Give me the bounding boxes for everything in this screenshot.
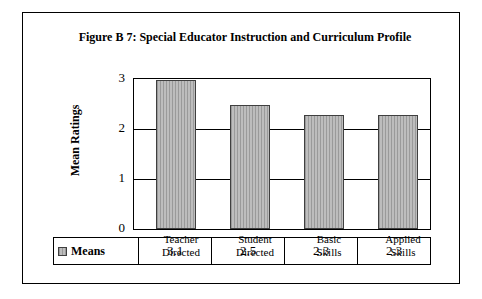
bar-student-directed (230, 105, 270, 229)
legend-label: Means (71, 244, 105, 258)
figure-container: Figure B 7: Special Educator Instruction… (0, 0, 482, 299)
table-cell-student-directed: 2.5 (212, 238, 285, 265)
y-axis-title: Mean Ratings (68, 81, 83, 201)
legend-cell: Means (54, 238, 139, 265)
chart-title: Figure B 7: Special Educator Instruction… (75, 29, 415, 45)
y-tick-label-1: 1 (103, 173, 125, 183)
bar-basic-skills (304, 115, 344, 229)
chart-frame: Figure B 7: Special Educator Instruction… (22, 12, 460, 284)
table-cell-teacher-directed: 3.1 (139, 238, 212, 265)
table-cell-applied-skills: 2.3 (358, 238, 431, 265)
y-tick-label-0: 0 (103, 223, 125, 233)
plot-area (133, 78, 431, 230)
bar-applied-skills (378, 115, 418, 229)
table-row: Means 3.1 2.5 2.3 2.3 (54, 238, 431, 265)
y-tick-label-2: 2 (103, 123, 125, 133)
data-table: Means 3.1 2.5 2.3 2.3 (53, 237, 431, 265)
y-tick-label-3: 3 (103, 73, 125, 83)
bar-teacher-directed (156, 80, 196, 229)
legend-swatch-icon (58, 247, 67, 256)
table-cell-basic-skills: 2.3 (285, 238, 358, 265)
